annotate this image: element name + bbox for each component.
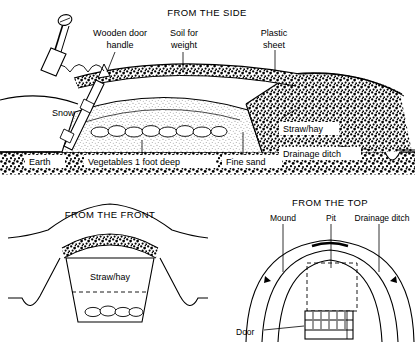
label-straw-hay-side: Straw/hay	[283, 124, 324, 134]
label-earth: Earth	[29, 157, 51, 167]
label-wooden-door-handle-line2: handle	[106, 40, 133, 50]
label-pit: Pit	[326, 213, 337, 223]
label-snow: Snow	[52, 108, 75, 118]
front-panel-title: FROM THE FRONT	[65, 209, 155, 220]
label-wooden-door-handle-line1: Wooden door	[93, 28, 147, 38]
label-door: Door	[236, 327, 255, 337]
label-soil-for-weight-line1: Soil for	[170, 28, 198, 38]
label-straw-hay-front: Straw/hay	[90, 272, 131, 282]
label-mound: Mound	[270, 213, 296, 223]
side-panel-title: FROM THE SIDE	[167, 7, 246, 18]
label-vegetables-depth: Vegetables 1 foot deep	[88, 157, 180, 167]
top-door-grid	[305, 311, 353, 339]
label-plastic-sheet-line2: sheet	[263, 40, 286, 50]
label-drainage-ditch-side: Drainage ditch	[283, 149, 341, 159]
diagram-root: FROM THE SIDE	[0, 0, 415, 342]
label-drainage-ditch-top: Drainage ditch	[355, 213, 410, 223]
top-panel-title: FROM THE TOP	[292, 197, 368, 208]
label-fine-sand: Fine sand	[226, 157, 266, 167]
label-soil-for-weight-line2: weight	[170, 40, 198, 50]
root-cellar-diagram: FROM THE SIDE	[0, 0, 415, 342]
label-plastic-sheet-line1: Plastic	[261, 28, 288, 38]
